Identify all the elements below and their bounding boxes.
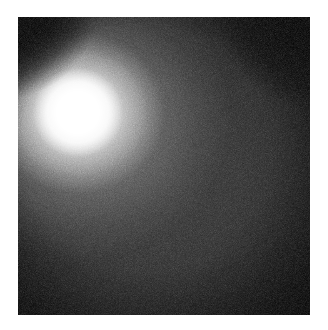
bright-spot-halo (18, 17, 310, 315)
circular-field-of-view (18, 17, 310, 315)
page-canvas (0, 0, 328, 330)
sensor-grain-overlay (18, 17, 310, 315)
bright-spot-core (18, 17, 310, 315)
corner-shadow-top-left (18, 17, 310, 315)
vignette-overlay (18, 17, 310, 315)
sensor-grain-fine-overlay (18, 17, 310, 315)
corner-shadow-top-right (18, 17, 310, 315)
imaging-frame (18, 17, 310, 315)
bright-spot-midglow (18, 17, 310, 315)
